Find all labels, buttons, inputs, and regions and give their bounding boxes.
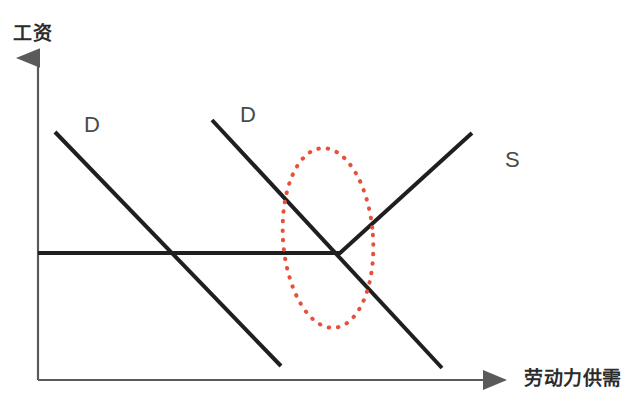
economics-diagram	[0, 0, 640, 411]
supply-curve-label: S	[505, 149, 520, 171]
demand-curve-left-label: D	[84, 114, 100, 136]
supply-curve	[38, 133, 472, 253]
figure-canvas: 工资 劳动力供需 D D S	[0, 0, 640, 411]
equilibrium-highlight-ellipse	[277, 145, 379, 331]
demand-curve-left	[55, 132, 281, 366]
demand-curve-right-label: D	[240, 104, 256, 126]
x-axis-label: 劳动力供需	[524, 369, 622, 388]
y-axis-label: 工资	[13, 24, 52, 43]
